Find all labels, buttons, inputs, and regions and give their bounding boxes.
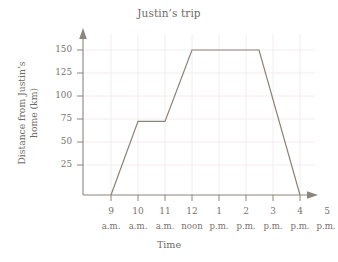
x-tick-meridiem-10: a.m. bbox=[125, 221, 151, 231]
y-tick-label-100: 100 bbox=[46, 90, 72, 100]
x-tick-meridiem-9: a.m. bbox=[98, 221, 124, 231]
x-axis bbox=[83, 191, 318, 201]
x-tick-hour-5: 5 bbox=[315, 206, 338, 216]
x-tick-hour-10: 10 bbox=[126, 206, 150, 216]
y-axis bbox=[77, 28, 87, 195]
x-tick-hour-11: 11 bbox=[153, 206, 177, 216]
y-tick-label-150: 150 bbox=[46, 44, 72, 54]
y-tick-label-25: 25 bbox=[46, 159, 72, 169]
data-line-distance-from-home bbox=[111, 50, 300, 195]
x-tick-meridiem-3: p.m. bbox=[260, 221, 286, 231]
x-tick-hour-4: 4 bbox=[288, 206, 312, 216]
y-tick-label-125: 125 bbox=[46, 67, 72, 77]
x-tick-hour-9: 9 bbox=[99, 206, 123, 216]
y-tick-label-75: 75 bbox=[46, 113, 72, 123]
x-tick-meridiem-4: p.m. bbox=[287, 221, 313, 231]
x-tick-hour-12: 12 bbox=[180, 206, 204, 216]
grid-lines bbox=[83, 34, 315, 195]
chart-figure: Justin’s trip Distance from Justin’s hom… bbox=[0, 0, 338, 262]
x-tick-meridiem-12: noon bbox=[179, 221, 205, 231]
y-tick-label-50: 50 bbox=[46, 136, 72, 146]
x-tick-meridiem-1: p.m. bbox=[206, 221, 232, 231]
x-tick-hour-1: 1 bbox=[207, 206, 231, 216]
x-tick-hour-3: 3 bbox=[261, 206, 285, 216]
x-tick-hour-2: 2 bbox=[234, 206, 258, 216]
x-tick-meridiem-5: p.m. bbox=[313, 221, 338, 231]
x-tick-meridiem-2: p.m. bbox=[233, 221, 259, 231]
x-tick-meridiem-11: a.m. bbox=[152, 221, 178, 231]
x-axis-title: Time bbox=[0, 239, 338, 250]
